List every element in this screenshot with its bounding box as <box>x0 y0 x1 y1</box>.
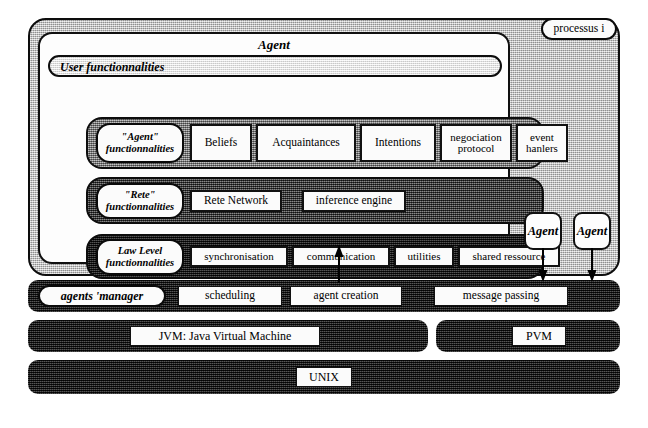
agent-functionalities-label: "Agent" functionnalities <box>96 123 184 163</box>
item-agent-creation-text: agent creation <box>314 290 379 302</box>
item-synchronisation-text: synchronisation <box>204 251 274 262</box>
agents-manager-label-text: agents 'manager <box>61 290 143 302</box>
arrow-side-agent-2-to-manager-icon <box>585 248 599 284</box>
item-message-passing: message passing <box>434 286 568 306</box>
low-level-functionalities-label-line2: functionnalities <box>106 258 174 269</box>
rete-functionalities-label-line2: functionnalities <box>106 202 174 213</box>
arrow-side-agent-1-to-manager-icon <box>536 248 550 284</box>
item-pvm-text: PVM <box>526 330 552 342</box>
item-scheduling-text: scheduling <box>205 290 255 302</box>
arrow-agent-to-manager-icon <box>332 243 346 283</box>
side-agent-label-2: Agent <box>577 224 608 239</box>
item-acquaintances: Acquaintances <box>256 124 356 162</box>
item-agent-creation: agent creation <box>290 286 402 306</box>
item-shared-ressource-text: shared ressource <box>473 251 546 262</box>
item-inference-engine-text: inference engine <box>316 195 392 207</box>
item-pvm: PVM <box>512 326 566 346</box>
item-intentions: Intentions <box>360 124 436 162</box>
item-utilities-text: utilities <box>408 251 441 262</box>
item-rete-network-text: Rete Network <box>204 195 268 207</box>
item-event-hanlers: event hanlers <box>516 124 568 162</box>
item-beliefs-text: Beliefs <box>205 137 238 149</box>
rete-functionalities-label-line1: "Rete" <box>125 190 156 201</box>
item-message-passing-text: message passing <box>463 290 539 302</box>
rete-functionalities-label: "Rete" functionnalities <box>96 183 184 219</box>
item-scheduling: scheduling <box>178 286 282 306</box>
low-level-functionalities-label: Law Level functionnalities <box>96 239 184 275</box>
process-label-text: processus i <box>554 23 605 35</box>
item-jvm: JVM: Java Virtual Machine <box>130 326 320 346</box>
item-event-hanlers-text: event hanlers <box>520 132 564 154</box>
user-functionalities-label: User functionnalities <box>60 60 164 75</box>
item-unix: UNIX <box>296 367 352 387</box>
pvm-bar: PVM <box>436 320 620 352</box>
side-agent-label-1: Agent <box>528 224 559 239</box>
item-beliefs: Beliefs <box>190 124 252 162</box>
agent-title: Agent <box>40 37 508 53</box>
agents-manager-label: agents 'manager <box>38 285 166 307</box>
user-functionalities-bar: User functionnalities <box>48 55 502 77</box>
item-negociation-protocol: negociation protocol <box>440 124 512 162</box>
process-label: processus i <box>541 18 617 40</box>
low-level-functionalities-label-line1: Law Level <box>118 246 163 257</box>
unix-bar: UNIX <box>28 360 620 394</box>
agent-functionalities-label-line2: functionnalities <box>106 144 174 155</box>
jvm-bar: JVM: Java Virtual Machine <box>28 320 428 352</box>
architecture-diagram: processus i Agent User functionnalities … <box>0 0 648 428</box>
item-negociation-protocol-text: negociation protocol <box>444 132 508 154</box>
item-rete-network: Rete Network <box>190 190 282 212</box>
item-inference-engine: inference engine <box>302 190 406 212</box>
item-synchronisation: synchronisation <box>190 246 288 267</box>
item-acquaintances-text: Acquaintances <box>272 137 340 149</box>
agent-container: Agent User functionnalities "Agent" func… <box>38 32 510 264</box>
item-utilities: utilities <box>394 246 454 267</box>
agent-functionalities-label-line1: "Agent" <box>121 132 158 143</box>
side-agent-box-2: Agent <box>573 212 611 250</box>
item-jvm-text: JVM: Java Virtual Machine <box>159 330 292 342</box>
side-agent-box-1: Agent <box>524 212 562 250</box>
item-intentions-text: Intentions <box>375 137 421 149</box>
item-unix-text: UNIX <box>309 371 339 383</box>
agents-manager-bar: agents 'manager scheduling agent creatio… <box>28 280 620 312</box>
